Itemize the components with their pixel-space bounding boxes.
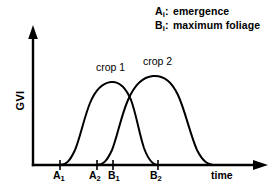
legend-foliage-symbol: B bbox=[155, 19, 163, 31]
curve-label-crop-1: crop 1 bbox=[96, 62, 125, 73]
x-tick-label-a2-symbol: A bbox=[89, 169, 97, 181]
x-tick-label-b1-subscript: 1 bbox=[116, 174, 120, 183]
x-axis-right-arrow-icon bbox=[253, 160, 268, 170]
x-tick-label-b2: B2 bbox=[150, 170, 162, 181]
gvi-crop-phenology-figure: Ai: emergence Bi: maximum foliage crop 1… bbox=[0, 0, 274, 193]
legend-emergence-text: emergence bbox=[173, 5, 229, 17]
legend-emergence-subscript: i bbox=[163, 10, 165, 19]
crop-2-curve bbox=[97, 76, 216, 165]
x-tick-label-a1: A1 bbox=[53, 170, 65, 181]
x-tick-label-a1-symbol: A bbox=[53, 169, 61, 181]
x-tick-label-a2: A2 bbox=[89, 170, 101, 181]
x-tick-label-a1-subscript: 1 bbox=[61, 174, 65, 183]
legend-emergence-symbol: A bbox=[155, 5, 163, 17]
legend-entry-maximum-foliage: Bi: maximum foliage bbox=[155, 20, 260, 31]
x-tick-label-a2-subscript: 2 bbox=[97, 174, 101, 183]
legend-foliage-text: maximum foliage bbox=[173, 19, 260, 31]
legend-foliage-subscript: i bbox=[163, 24, 165, 33]
y-axis-title: GVI bbox=[15, 78, 26, 124]
x-tick-label-b1-symbol: B bbox=[108, 169, 116, 181]
curve-label-crop-2: crop 2 bbox=[143, 56, 172, 67]
x-tick-label-b2-symbol: B bbox=[150, 169, 158, 181]
x-tick-label-b1: B1 bbox=[108, 170, 120, 181]
y-axis-up-arrow-icon bbox=[28, 25, 38, 39]
x-tick-label-b2-subscript: 2 bbox=[158, 174, 162, 183]
legend-entry-emergence: Ai: emergence bbox=[155, 6, 229, 17]
x-axis-title: time bbox=[211, 170, 233, 181]
crop-1-curve bbox=[60, 82, 158, 165]
